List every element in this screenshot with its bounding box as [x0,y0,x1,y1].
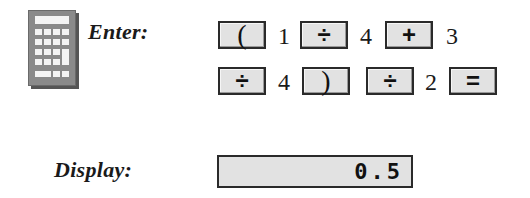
calculator-icon-key [35,29,42,35]
calculator-icon-key [53,59,60,65]
number-2: 2 [425,70,437,94]
calculator-icon-key [62,39,69,45]
calculator-icon-key [44,59,51,65]
number-3: 3 [446,24,458,48]
calculator-icon-key [62,29,69,35]
enter-label: Enter: [88,19,148,45]
calculator-icon-key [62,49,69,65]
display-label: Display: [54,157,132,183]
display-value: 0.5 [354,159,403,184]
key-close-paren: ) [302,67,350,95]
key-divide: ÷ [366,67,414,95]
number-1: 1 [278,24,290,48]
calculator-icon-key [35,59,42,65]
calculator-icon-screen [35,16,69,24]
calculator-icon-key [53,49,60,55]
calculator-icon-key [35,71,51,77]
key-plus: + [385,21,433,49]
number-4: 4 [360,24,372,48]
calculator-icon-key [35,49,42,55]
key-divide: ÷ [300,21,348,49]
calculator-icon [28,10,76,86]
key-divide: ÷ [218,67,266,95]
key-equals: = [449,67,497,95]
calculator-icon-key [53,29,60,35]
calculator-icon-key [53,71,60,77]
calculator-icon-key [44,39,51,45]
calculator-icon-key [62,71,69,77]
calculator-display: 0.5 [217,155,413,188]
key-open-paren: ( [218,21,266,49]
calculator-icon-key [35,39,42,45]
calculator-icon-key [44,29,51,35]
calculator-icon-key [53,39,60,45]
number-4: 4 [278,70,290,94]
calculator-icon-key [44,49,51,55]
